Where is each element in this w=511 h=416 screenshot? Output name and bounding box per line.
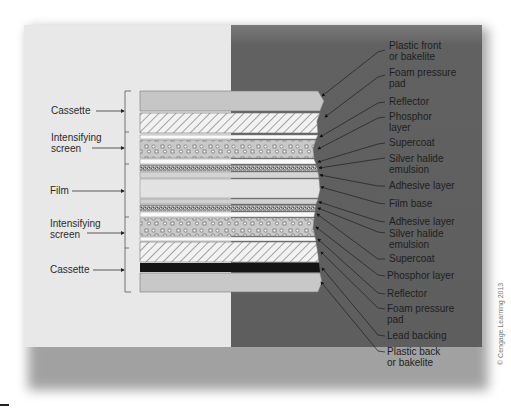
- layer-supercoat-top: [140, 159, 316, 164]
- label-cassette-top: Cassette: [51, 105, 90, 116]
- layer-phosphor-bottom: [140, 218, 315, 236]
- right-leader-lines: [316, 50, 385, 352]
- label-plastic-front: Plastic front or bakelite: [389, 40, 441, 62]
- layer-supercoat-bottom: [140, 212, 315, 217]
- left-bracket: [125, 91, 131, 292]
- layer-film-base: [140, 179, 320, 198]
- layer-phosphor-top: [140, 140, 316, 158]
- label-plastic-back: Plastic back or bakelite: [387, 346, 440, 368]
- layer-emulsion-top: [140, 165, 318, 171]
- label-adhesive-layer-bottom: Adhesive layer: [389, 216, 455, 227]
- label-phosphor-layer-top: Phosphor layer: [389, 111, 432, 133]
- label-reflector-top: Reflector: [389, 96, 429, 107]
- label-film: Film: [50, 185, 69, 196]
- label-foam-pressure-pad-bottom: Foam pressure pad: [387, 303, 454, 325]
- label-silver-halide-emulsion-bottom: Silver halide emulsion: [389, 228, 443, 250]
- copyright-notice: © Cengage Learning 2013: [497, 283, 504, 365]
- layer-foam-pad-top: [140, 113, 320, 133]
- layer-reflector-bottom: [140, 237, 316, 241]
- layer-reflector-top: [140, 135, 318, 139]
- label-phosphor-layer-bottom: Phosphor layer: [387, 270, 454, 281]
- layer-emulsion-bottom: [140, 205, 316, 211]
- label-reflector-bottom: Reflector: [387, 288, 427, 299]
- layer-lead-backing: [140, 263, 320, 272]
- label-supercoat-bottom: Supercoat: [389, 253, 435, 264]
- layer-stack: [140, 91, 324, 292]
- layer-adhesive-bottom: [140, 199, 318, 204]
- layer-plastic-back: [140, 273, 322, 292]
- layer-foam-pad-bottom: [140, 242, 319, 262]
- label-film-base: Film base: [389, 198, 432, 209]
- label-cassette-bottom: Cassette: [50, 264, 89, 275]
- margin-dash: [0, 404, 9, 406]
- label-intensifying-screen-top: Intensifying screen: [51, 132, 102, 154]
- label-supercoat-top: Supercoat: [389, 137, 435, 148]
- label-foam-pressure-pad-top: Foam pressure pad: [389, 67, 456, 89]
- label-silver-halide-emulsion-top: Silver halide emulsion: [389, 153, 443, 175]
- label-adhesive-layer-top: Adhesive layer: [389, 180, 455, 191]
- layer-adhesive-top: [140, 172, 319, 178]
- label-lead-backing: Lead backing: [387, 330, 447, 341]
- layer-plastic-front: [140, 91, 324, 111]
- label-intensifying-screen-bottom: Intensifying screen: [50, 218, 101, 240]
